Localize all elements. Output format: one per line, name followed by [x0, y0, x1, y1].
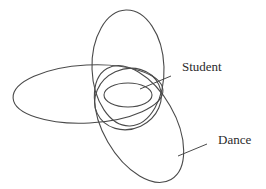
dance-leader-line [178, 144, 207, 156]
horizontal-ellipse [12, 61, 165, 127]
student-label: Student [182, 59, 222, 74]
ellipse-diagram: Student Dance [0, 0, 266, 189]
dance-label: Dance [218, 132, 251, 147]
